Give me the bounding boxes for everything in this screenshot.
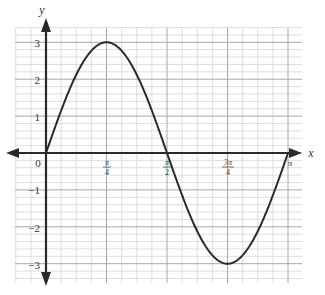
y-tick-neg2: −2 bbox=[28, 222, 40, 234]
svg-text:4: 4 bbox=[105, 168, 109, 177]
sine-graph: y x 0 3 2 1 −1 −2 −3 π 4 π 2 3π 4 π bbox=[0, 0, 325, 295]
x-tick-pi: π bbox=[288, 158, 293, 168]
x-axis-label: x bbox=[307, 146, 314, 160]
x-axis-right-arrow-icon bbox=[289, 148, 302, 158]
grid-minor-lines bbox=[15, 28, 302, 283]
svg-text:π: π bbox=[105, 158, 110, 167]
svg-text:3π: 3π bbox=[223, 158, 233, 167]
grid-major-lines bbox=[15, 28, 302, 283]
svg-text:4: 4 bbox=[226, 168, 230, 177]
y-tick-neg3: −3 bbox=[28, 259, 40, 271]
svg-text:2: 2 bbox=[165, 168, 169, 177]
y-axis-up-arrow-icon bbox=[41, 18, 51, 32]
y-axis-down-arrow-icon bbox=[41, 272, 51, 286]
y-tick-2: 2 bbox=[35, 74, 41, 86]
y-tick-1: 1 bbox=[35, 111, 41, 123]
origin-label: 0 bbox=[35, 157, 41, 169]
x-axis-left-arrow-icon bbox=[6, 148, 19, 158]
y-tick-3: 3 bbox=[35, 37, 41, 49]
y-axis-label: y bbox=[38, 3, 45, 17]
y-tick-neg1: −1 bbox=[28, 184, 40, 196]
